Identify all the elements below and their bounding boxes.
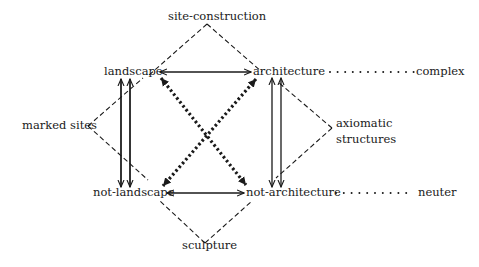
- node-architecture: architecture: [253, 66, 325, 78]
- edge-sculpture-notlandscape: [160, 201, 205, 243]
- node-marked-sites: marked sites: [22, 120, 97, 132]
- edge-sculpture-notarchitecture: [205, 201, 252, 243]
- contradiction-landscape-notarchitecture: [161, 78, 246, 185]
- node-structures: structures: [336, 134, 396, 146]
- node-site-construction: site-construction: [168, 11, 266, 23]
- node-axiomatic: axiomatic: [336, 118, 392, 130]
- node-not-landscape: not-landscape: [93, 187, 175, 199]
- node-landscape: landscape: [104, 66, 163, 78]
- edge-markedsites-notlandscape: [88, 126, 148, 180]
- node-complex: complex: [416, 66, 465, 78]
- node-neuter: neuter: [418, 187, 457, 199]
- edge-axiomatic-architecture: [278, 82, 332, 128]
- edge-axiomatic-notarchitecture: [276, 128, 332, 178]
- node-sculpture: sculpture: [182, 240, 237, 252]
- contradiction-architecture-notlandscape: [163, 79, 256, 186]
- heavy-dotted-diagonals: [161, 78, 256, 186]
- node-not-architecture: not-architecture: [246, 187, 341, 199]
- semiotic-square-diagram: site-construction landscape architecture…: [0, 0, 479, 267]
- diagram-lines: [0, 0, 479, 267]
